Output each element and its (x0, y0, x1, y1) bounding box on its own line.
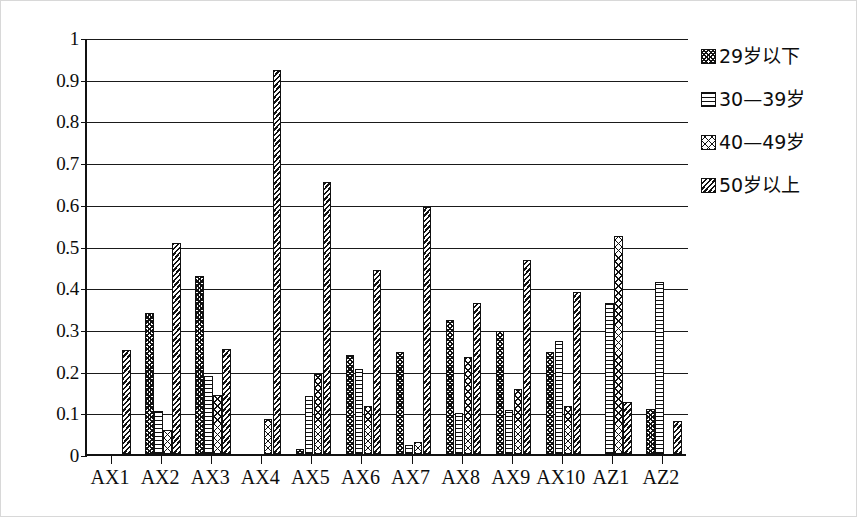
y-tick-label: 0.7 (33, 154, 79, 173)
x-tick-mark (211, 456, 212, 464)
x-tick-label: AX3 (191, 465, 230, 489)
bar (605, 303, 613, 454)
bar (213, 395, 221, 454)
legend-label: 50岁以上 (719, 174, 800, 196)
bar-group (538, 37, 588, 454)
x-tick-mark (512, 456, 513, 464)
bar (296, 449, 304, 454)
bar (364, 406, 372, 454)
x-tick-mark (462, 456, 463, 464)
x-axis-labels: AX1AX2AX3AX4AX5AX6AX7AX8AX9AX10AZ1AZ2 (85, 465, 686, 495)
legend-item[interactable]: 40—49岁 (701, 131, 851, 153)
x-tick-label: AX9 (491, 465, 530, 489)
bar (473, 303, 481, 454)
y-axis-labels: 10.90.80.70.60.50.40.30.20.10 (27, 39, 79, 456)
bar (546, 352, 554, 454)
x-tick-mark (111, 456, 112, 464)
y-tick-label: 0.2 (33, 363, 79, 382)
bar (355, 369, 363, 454)
bar (264, 419, 272, 454)
x-tick-mark (662, 456, 663, 464)
x-tick-label: AX1 (91, 465, 130, 489)
bar-group (438, 37, 488, 454)
bar-group (388, 37, 438, 454)
bar-group (237, 37, 287, 454)
bar-group (488, 37, 538, 454)
chart-legend: 29岁以下30—39岁40—49岁50岁以上 (701, 45, 851, 217)
legend-swatch-icon (701, 92, 716, 107)
y-tick-label: 0.6 (33, 196, 79, 215)
y-tick-label: 0.3 (33, 321, 79, 340)
x-tick-label: AX5 (291, 465, 330, 489)
chart-figure: 10.90.80.70.60.50.40.30.20.10 AX1AX2AX3A… (0, 0, 857, 517)
bar (122, 350, 130, 454)
bar-group (638, 37, 688, 454)
x-tick-label: AZ2 (643, 465, 680, 489)
bar (346, 355, 354, 454)
bar-group (588, 37, 638, 454)
x-tick-mark (361, 456, 362, 464)
bar (154, 411, 162, 454)
y-tick-label: 0.8 (33, 112, 79, 131)
bar-group (187, 37, 237, 454)
bar (163, 430, 171, 454)
bar (405, 445, 413, 454)
x-tick-label: AX2 (141, 465, 180, 489)
legend-item[interactable]: 50岁以上 (701, 174, 851, 196)
bar (195, 276, 203, 454)
bar-group (287, 37, 337, 454)
y-tick-label: 0 (33, 446, 79, 465)
bar (145, 313, 153, 454)
y-tick-label: 0.9 (33, 71, 79, 90)
x-tick-label: AX6 (341, 465, 380, 489)
x-tick-mark (562, 456, 563, 464)
bar (314, 374, 322, 454)
bar (646, 409, 654, 454)
legend-label: 40—49岁 (719, 131, 805, 153)
bar-group (337, 37, 387, 454)
bar (455, 413, 463, 454)
x-tick-mark (412, 456, 413, 464)
legend-swatch-icon (701, 135, 716, 150)
bar (414, 442, 422, 454)
y-tick-label: 1 (33, 29, 79, 48)
bar-group (137, 37, 187, 454)
y-tick-label: 0.4 (33, 279, 79, 298)
bar (172, 243, 180, 454)
bar (614, 236, 622, 454)
plot-area (85, 39, 686, 456)
bar (423, 207, 431, 454)
bar (655, 282, 663, 454)
x-tick-label: AX8 (441, 465, 480, 489)
legend-label: 29岁以下 (719, 45, 800, 67)
x-tick-label: AX4 (241, 465, 280, 489)
bar (273, 70, 281, 454)
legend-label: 30—39岁 (719, 88, 805, 110)
bar (573, 292, 581, 454)
x-tick-mark (612, 456, 613, 464)
bar (623, 402, 631, 454)
y-tick-label: 0.1 (33, 404, 79, 423)
bar (673, 421, 681, 454)
x-tick-mark (261, 456, 262, 464)
bar (323, 182, 331, 454)
y-tick-label: 0.5 (33, 238, 79, 257)
x-tick-mark (311, 456, 312, 464)
bar (496, 331, 504, 454)
legend-item[interactable]: 29岁以下 (701, 45, 851, 67)
legend-swatch-icon (701, 178, 716, 193)
bar (464, 357, 472, 454)
bar (396, 352, 404, 454)
bar (564, 406, 572, 454)
legend-swatch-icon (701, 49, 716, 64)
legend-item[interactable]: 30—39岁 (701, 88, 851, 110)
bar (555, 341, 563, 454)
bar-group (87, 37, 137, 454)
x-tick-label: AX7 (391, 465, 430, 489)
bar (505, 410, 513, 454)
bar (204, 376, 212, 454)
x-tick-label: AZ1 (593, 465, 630, 489)
bar (514, 389, 522, 454)
bar (446, 320, 454, 454)
bar (222, 349, 230, 454)
